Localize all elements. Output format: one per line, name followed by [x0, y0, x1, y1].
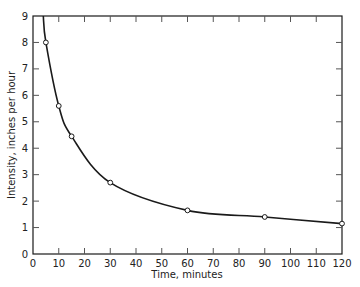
x-tick-label: 10	[52, 258, 65, 269]
y-tick-label: 0	[22, 249, 28, 260]
data-point-marker	[340, 221, 345, 226]
y-tick-label: 8	[22, 37, 28, 48]
y-tick-label: 3	[22, 169, 28, 180]
x-tick-label: 40	[130, 258, 143, 269]
x-tick-label: 60	[181, 258, 194, 269]
x-tick-label: 80	[233, 258, 246, 269]
x-tick-label: 110	[307, 258, 326, 269]
intensity-duration-chart: 0123456789 0102030405060708090100110120 …	[0, 0, 360, 287]
y-tick-label: 1	[22, 222, 28, 233]
x-tick-label: 70	[207, 258, 220, 269]
x-axis-ticks: 0102030405060708090100110120	[30, 16, 352, 269]
y-tick-label: 5	[22, 116, 28, 127]
data-curve	[43, 16, 342, 224]
data-point-marker	[56, 104, 61, 109]
x-tick-label: 20	[78, 258, 91, 269]
x-axis-label: Time, minutes	[150, 269, 222, 280]
y-tick-label: 9	[22, 11, 28, 22]
data-point-marker	[43, 40, 48, 45]
x-tick-label: 100	[281, 258, 300, 269]
x-tick-label: 50	[155, 258, 168, 269]
series-line	[43, 16, 342, 224]
y-axis-label: Intensity, inches per hour	[6, 70, 17, 199]
x-tick-label: 120	[332, 258, 351, 269]
y-tick-label: 4	[22, 143, 28, 154]
x-tick-label: 0	[30, 258, 36, 269]
data-point-marker	[262, 215, 267, 220]
x-tick-label: 30	[104, 258, 117, 269]
x-tick-label: 90	[258, 258, 271, 269]
y-tick-label: 7	[22, 63, 28, 74]
data-markers	[43, 40, 344, 226]
data-point-marker	[108, 180, 113, 185]
y-tick-label: 2	[22, 196, 28, 207]
data-point-marker	[185, 208, 190, 213]
data-point-marker	[69, 134, 74, 139]
y-tick-label: 6	[22, 90, 28, 101]
plot-border	[33, 16, 342, 254]
plot-frame	[33, 16, 342, 254]
